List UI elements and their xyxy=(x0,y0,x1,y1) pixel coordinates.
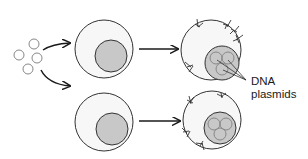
cell-transfected-top xyxy=(181,19,243,80)
dna-label-line1: DNA xyxy=(251,75,275,87)
arrow-to-bottom-cell xyxy=(41,70,70,86)
plasmid-icon xyxy=(14,50,24,60)
plasmid-icon xyxy=(23,64,33,74)
arrow-to-top-cell xyxy=(43,43,70,50)
cell-transfected-bottom xyxy=(182,91,241,150)
dna-label-line2: plasmids xyxy=(251,88,296,100)
nucleus xyxy=(96,113,128,145)
cell-untreated-top xyxy=(75,20,133,78)
transfection-diagram: DNA plasmids xyxy=(0,0,308,159)
free-plasmids xyxy=(14,39,42,74)
plasmid-icon xyxy=(32,53,42,63)
plasmid-icon xyxy=(29,39,39,49)
cell-untreated-bottom xyxy=(75,93,133,151)
nucleus xyxy=(95,40,127,72)
